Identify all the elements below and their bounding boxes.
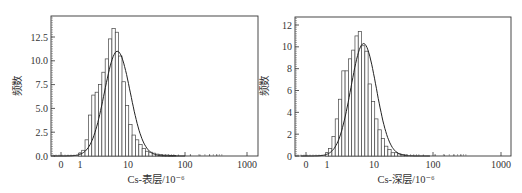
histogram-bar <box>146 151 149 156</box>
y-tick-label: 2.5 <box>36 127 49 138</box>
x-tick-label: 100 <box>178 159 193 170</box>
left-x-axis-title: Cs-表层/10⁻⁶ <box>127 173 185 185</box>
x-tick-label: 10 <box>369 159 379 170</box>
histogram-bar <box>122 82 125 156</box>
histogram-bar <box>335 119 338 156</box>
right-x-tick-labels: 01101001000 <box>304 159 512 170</box>
histogram-bar <box>391 153 394 156</box>
histogram-bar <box>342 71 345 156</box>
x-tick-label: 1 <box>78 159 83 170</box>
histogram-bar <box>119 56 122 156</box>
left-y-axis-title: 频数 <box>11 75 23 96</box>
histogram-bar <box>385 146 388 156</box>
x-tick-label: 1 <box>325 159 330 170</box>
histogram-bar <box>132 135 135 156</box>
histogram-bar <box>332 136 335 156</box>
y-tick-label: 5.0 <box>36 103 49 114</box>
right-y-tick-labels: 024681012 <box>282 20 292 162</box>
histogram-bar <box>92 95 95 156</box>
y-tick-label: 6 <box>287 85 292 96</box>
y-tick-label: 0 <box>287 151 292 162</box>
x-tick-label: 0 <box>59 159 64 170</box>
y-tick-label: 12 <box>282 20 292 31</box>
y-tick-label: 10 <box>282 41 292 52</box>
left-plot-frame <box>51 16 258 156</box>
histogram-bar <box>125 106 128 156</box>
left-x-tick-labels: 01101001000 <box>59 159 258 170</box>
histogram-bar <box>139 145 142 156</box>
y-tick-label: 4 <box>287 107 292 118</box>
right-x-axis-title: Cs-深层/10⁻⁶ <box>377 174 435 185</box>
histogram-bar <box>98 85 101 156</box>
histogram-bar <box>135 140 138 156</box>
x-tick-label: 1000 <box>237 159 257 170</box>
histogram-bar <box>388 149 391 156</box>
histogram-bar <box>381 139 384 156</box>
right-histogram-panel: 024681012 01101001000 频数 Cs-深层/10⁻⁶ <box>258 17 511 185</box>
histogram-bar <box>368 84 371 156</box>
y-tick-label: 8 <box>287 63 292 74</box>
y-tick-label: 2 <box>287 129 292 140</box>
histogram-bar <box>112 28 115 156</box>
histogram-bar <box>339 99 342 156</box>
y-tick-label: 10.0 <box>31 55 49 66</box>
left-y-axis-ticks <box>51 18 55 156</box>
histogram-bar <box>109 39 112 156</box>
x-tick-label: 0 <box>304 159 309 170</box>
right-histogram-bars <box>325 32 461 156</box>
histogram-bar <box>365 51 368 156</box>
x-tick-label: 10 <box>123 159 133 170</box>
histogram-bar <box>375 119 378 156</box>
left-histogram-panel: 0.02.55.07.510.012.5 01101001000 频数 Cs-表… <box>11 16 258 185</box>
histogram-figure: 0.02.55.07.510.012.5 01101001000 频数 Cs-表… <box>0 0 522 193</box>
histogram-bar <box>88 115 91 156</box>
x-tick-label: 1000 <box>491 159 511 170</box>
y-tick-label: 7.5 <box>36 79 49 90</box>
histogram-bar <box>378 130 381 156</box>
left-y-tick-labels: 0.02.55.07.510.012.5 <box>31 32 49 162</box>
left-histogram-bars <box>78 28 216 156</box>
histogram-bar <box>129 125 132 156</box>
histogram-bar <box>362 46 365 156</box>
y-tick-label: 12.5 <box>31 32 49 43</box>
right-plot-frame <box>295 17 511 156</box>
right-y-axis-ticks <box>295 18 299 156</box>
x-tick-label: 100 <box>426 159 441 170</box>
y-tick-label: 0.0 <box>36 151 49 162</box>
histogram-bar <box>348 59 351 156</box>
histogram-bar <box>95 92 98 156</box>
right-y-axis-title: 频数 <box>258 75 270 96</box>
histogram-bar <box>371 101 374 156</box>
histogram-bar <box>142 148 145 156</box>
histogram-bar <box>102 72 105 156</box>
histogram-bar <box>352 50 355 156</box>
